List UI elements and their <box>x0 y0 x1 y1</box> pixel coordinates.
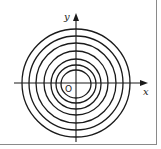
y-axis-arrow-icon <box>73 13 79 21</box>
contour-diagram <box>0 0 161 149</box>
y-axis-label: y <box>64 12 70 22</box>
origin-label: O <box>65 85 72 94</box>
x-axis-label: x <box>143 87 149 97</box>
